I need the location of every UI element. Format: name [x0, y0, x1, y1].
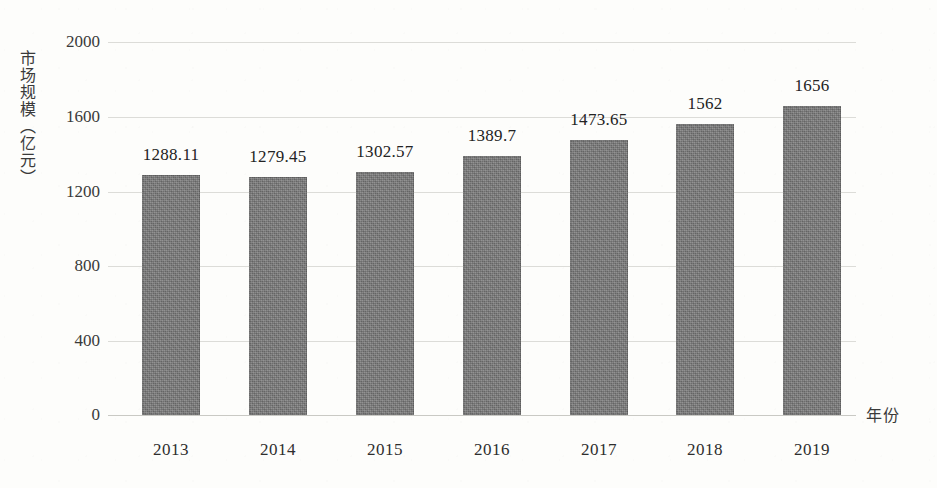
y-tick-label-1200: 1200	[30, 182, 100, 202]
bar-chart: 市场规模（亿元） 年份 2000 1600 1200 800 400 0 128…	[0, 0, 937, 488]
y-tick-label-400: 400	[30, 331, 100, 351]
bar-2016[interactable]	[463, 156, 521, 415]
y-tick-label-1600: 1600	[30, 107, 100, 127]
x-tick-label-2017: 2017	[581, 440, 617, 460]
x-tick-label-2013: 2013	[153, 440, 189, 460]
bar-value-label-2013: 1288.11	[143, 145, 200, 165]
y-tick-label-800: 800	[30, 256, 100, 276]
bar-2014[interactable]	[249, 177, 307, 415]
bar-2015[interactable]	[356, 172, 414, 415]
y-tick-label-2000: 2000	[30, 32, 100, 52]
gridline-2000	[108, 42, 856, 43]
bar-value-label-2017: 1473.65	[570, 110, 627, 130]
gridline-1600	[108, 117, 856, 118]
bar-2013[interactable]	[142, 175, 200, 415]
x-axis-title: 年份	[866, 402, 900, 426]
bar-2017[interactable]	[570, 140, 628, 415]
chart-page: 市场规模（亿元） 年份 2000 1600 1200 800 400 0 128…	[0, 0, 937, 488]
x-tick-label-2016: 2016	[474, 440, 510, 460]
bar-2018[interactable]	[676, 124, 734, 415]
y-tick-label-0: 0	[30, 405, 100, 425]
x-tick-label-2015: 2015	[367, 440, 403, 460]
bar-value-label-2015: 1302.57	[356, 142, 413, 162]
gridline-0	[108, 415, 856, 416]
bar-value-label-2016: 1389.7	[468, 126, 517, 146]
bar-value-label-2019: 1656	[794, 76, 829, 96]
x-tick-label-2014: 2014	[260, 440, 296, 460]
bar-value-label-2014: 1279.45	[249, 147, 306, 167]
x-tick-label-2019: 2019	[794, 440, 830, 460]
bar-2019[interactable]	[783, 106, 841, 415]
x-tick-label-2018: 2018	[687, 440, 723, 460]
bar-value-label-2018: 1562	[687, 94, 722, 114]
